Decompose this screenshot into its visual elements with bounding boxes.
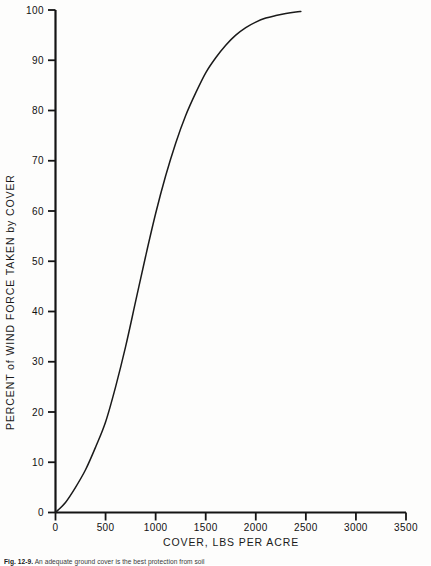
x-tick-label: 500 xyxy=(97,522,115,533)
y-tick-label: 20 xyxy=(32,407,44,418)
y-tick-label: 0 xyxy=(38,507,44,518)
x-tick-label: 3500 xyxy=(394,522,418,533)
y-tick-label: 10 xyxy=(32,457,44,468)
y-tick-label: 100 xyxy=(26,5,44,16)
x-axis-title: COVER, LBS PER ACRE xyxy=(163,536,299,548)
y-tick-label: 50 xyxy=(32,256,44,267)
figure-caption: Fig. 12-9. An adequate ground cover is t… xyxy=(4,558,424,566)
y-tick-label: 30 xyxy=(32,356,44,367)
x-tick-label: 1000 xyxy=(144,522,168,533)
x-tick-label: 2500 xyxy=(294,522,318,533)
x-tick-label: 1500 xyxy=(194,522,218,533)
y-tick-label: 40 xyxy=(32,306,44,317)
x-tick-label: 3000 xyxy=(344,522,368,533)
x-tick-label: 2000 xyxy=(244,522,268,533)
y-tick-label: 70 xyxy=(32,155,44,166)
y-axis-title: PERCENT of WIND FORCE TAKEN by COVER xyxy=(4,174,16,430)
figure-number: Fig. 12-9. xyxy=(4,558,33,565)
y-tick-label: 60 xyxy=(32,206,44,217)
y-tick-label: 80 xyxy=(32,105,44,116)
figure-caption-text: An adequate ground cover is the best pro… xyxy=(35,558,205,565)
y-tick-label: 90 xyxy=(32,55,44,66)
x-tick-label: 0 xyxy=(53,522,59,533)
